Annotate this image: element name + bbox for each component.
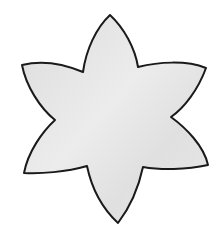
flower-petals — [22, 15, 208, 223]
flower-icon — [0, 0, 220, 244]
flower-drawing — [0, 0, 220, 244]
